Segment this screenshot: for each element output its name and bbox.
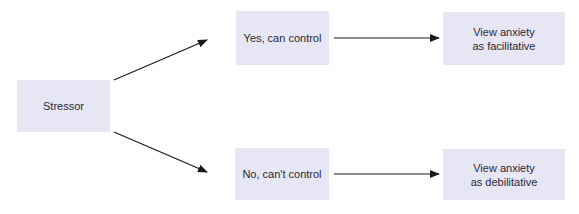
node-facilitative-line1: View anxiety — [473, 25, 535, 39]
node-debilitative: View anxiety as debilitative — [443, 149, 565, 200]
node-facilitative-line2: as facilitative — [473, 39, 536, 53]
arrow-stressor-to-cannot-control — [114, 132, 207, 172]
arrow-stressor-to-can-control — [114, 40, 207, 80]
node-facilitative: View anxiety as facilitative — [443, 12, 565, 65]
node-stressor-label: Stressor — [43, 99, 84, 113]
node-can-control-label: Yes, can control — [244, 31, 322, 45]
node-can-control: Yes, can control — [236, 11, 329, 65]
node-stressor: Stressor — [17, 80, 110, 132]
node-debilitative-line2: as debilitative — [471, 175, 538, 189]
node-cannot-control: No, can't control — [235, 148, 329, 200]
node-cannot-control-label: No, can't control — [242, 167, 321, 181]
node-debilitative-line1: View anxiety — [473, 161, 535, 175]
